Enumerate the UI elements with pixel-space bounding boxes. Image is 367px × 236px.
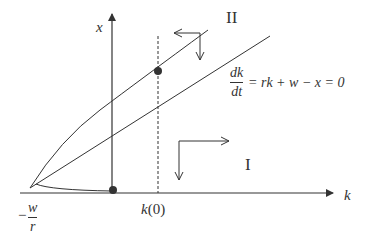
k-axis-label: k [344,188,351,203]
phase-diagram-canvas [0,0,367,236]
nullcline-equation: = rk + w − x = 0 [248,76,345,90]
axis-point [109,186,117,194]
x-axis-label: x [96,20,103,35]
intercept-fraction: w r [28,200,37,235]
nullcline-numerator: dk [230,65,243,81]
nullcline-line [30,36,270,188]
intercept-minus: − [18,208,26,223]
intercept-numerator: w [28,200,37,216]
k0-point [154,67,162,75]
region-ii-label: II [226,9,237,26]
k0-label: k(0) [141,202,165,217]
intercept-denominator: r [30,219,35,235]
nullcline-fraction: dk dt [230,65,243,100]
lower-trajectory [36,184,112,191]
saddle-path-curve [30,30,208,188]
region-i-label: I [245,156,251,173]
nullcline-denominator: dt [231,84,242,100]
